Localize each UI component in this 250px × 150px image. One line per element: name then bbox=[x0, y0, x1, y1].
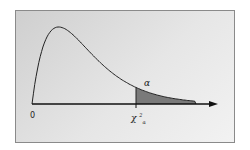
alpha-tail-region bbox=[136, 88, 196, 105]
x-axis-arrow-icon bbox=[209, 101, 218, 107]
density-curve bbox=[32, 27, 196, 104]
origin-label: 0 bbox=[30, 111, 35, 120]
alpha-label: α bbox=[144, 78, 150, 88]
chi-superscript: 2 bbox=[138, 112, 142, 118]
chi-subscript: α bbox=[142, 119, 146, 125]
chi-square-chart: 0 α χ 2 α bbox=[0, 0, 250, 150]
chi-symbol: χ bbox=[130, 113, 137, 123]
critical-value-label: χ 2 α bbox=[130, 109, 146, 125]
